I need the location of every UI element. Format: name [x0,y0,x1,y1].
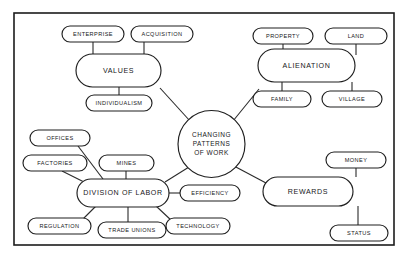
node-label-trade-unions: TRADE UNIONS [108,227,155,233]
node-alienation[interactable]: ALIENATION [258,49,355,82]
node-label-individualism: INDIVIDUALISM [96,100,143,106]
node-money[interactable]: MONEY [326,152,386,168]
node-offices[interactable]: OFFICES [30,130,90,146]
node-label-factories: FACTORIES [37,160,72,166]
node-label-values: VALUES [103,67,134,75]
node-technology[interactable]: TECHNOLOGY [166,218,230,234]
node-values[interactable]: VALUES [76,54,161,87]
node-regulation[interactable]: REGULATION [28,218,91,234]
node-enterprise[interactable]: ENTERPRISE [62,26,124,42]
edge-center-division [165,167,189,182]
diagram-canvas: VALUESALIENATIONDIVISION OF LABORREWARDS… [0,0,409,260]
node-efficiency[interactable]: EFFICIENCY [180,185,240,201]
node-label-technology: TECHNOLOGY [176,223,219,229]
node-division-of-labor[interactable]: DIVISION OF LABOR [77,179,169,207]
node-label-money: MONEY [345,157,368,163]
node-individualism[interactable]: INDIVIDUALISM [86,95,152,111]
concept-map-svg: VALUESALIENATIONDIVISION OF LABORREWARDS… [0,0,409,260]
node-center[interactable]: CHANGINGPATTERNSOF WORK [178,111,245,178]
node-trade-unions[interactable]: TRADE UNIONS [98,222,166,238]
node-status[interactable]: STATUS [330,225,388,241]
node-label-offices: OFFICES [46,135,73,141]
node-label-acquisition: ACQUISITION [142,31,183,37]
node-acquisition[interactable]: ACQUISITION [131,26,193,42]
node-label-village: VILLAGE [339,96,365,102]
edge-div-factories [62,171,86,183]
node-label-family: FAMILY [271,96,293,102]
node-rewards[interactable]: REWARDS [263,177,353,206]
node-label-center: CHANGINGPATTERNSOF WORK [192,131,231,156]
node-label-status: STATUS [347,230,371,236]
node-label-division-of-labor: DIVISION OF LABOR [83,189,163,197]
node-label-regulation: REGULATION [39,223,79,229]
node-family[interactable]: FAMILY [253,91,311,107]
node-label-property: PROPERTY [266,33,300,39]
node-label-land: LAND [348,33,365,39]
node-property[interactable]: PROPERTY [253,28,313,44]
node-label-efficiency: EFFICIENCY [191,190,228,196]
node-land[interactable]: LAND [325,28,387,44]
node-factories[interactable]: FACTORIES [23,155,87,171]
node-label-alienation: ALIENATION [283,62,331,70]
node-label-rewards: REWARDS [288,188,328,196]
edge-center-rewards [234,166,266,183]
node-village[interactable]: VILLAGE [322,91,382,107]
node-label-mines: MINES [117,160,137,166]
node-label-enterprise: ENTERPRISE [73,31,113,37]
node-mines[interactable]: MINES [99,155,154,171]
edge-center-values [160,88,190,121]
node-layer: VALUESALIENATIONDIVISION OF LABORREWARDS… [23,26,388,241]
